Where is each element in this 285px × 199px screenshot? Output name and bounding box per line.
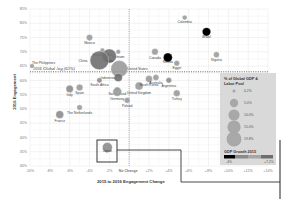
data-point-colombia[interactable]: Colombia (178, 15, 192, 24)
data-point-italy[interactable]: Italy (66, 85, 73, 97)
y-tick-label: 60% (20, 79, 28, 83)
y-tick-label: 30% (20, 164, 28, 168)
x-tick-label: +14% (263, 169, 273, 173)
data-point-label: The Philippines (32, 61, 55, 65)
data-point-china[interactable]: China (79, 51, 109, 70)
y-tick-label: 70% (20, 50, 28, 54)
x-tick-label: -6% (66, 169, 73, 173)
data-point-france[interactable]: France (54, 111, 65, 123)
data-point-label: China (79, 59, 88, 63)
legend-size-bubble (232, 89, 235, 92)
data-point-label: Colombia (178, 20, 192, 24)
data-point-label: United Kingdom (127, 91, 151, 95)
y-axis-title: 2016 Engagement (12, 74, 17, 110)
legend-size-label: 5.0% (244, 101, 252, 105)
data-point-canada[interactable]: Canada (149, 49, 161, 60)
legend-color-title: GDP Growth 2015 (224, 150, 256, 154)
data-point-label: Argentina (162, 84, 177, 88)
x-tick-label: +8% (205, 169, 213, 173)
legend-color-min: -4% (226, 160, 232, 164)
data-point-label: Russia (163, 60, 173, 64)
x-axis-ticks: -10%-8%-6%-4%-2%No Change+2%+4%+6%+8%+10… (26, 169, 274, 173)
data-point-the-netherlands[interactable]: The Netherlands (67, 105, 92, 115)
x-tick-label: No Change (119, 169, 138, 173)
data-point-russia[interactable]: Russia (163, 53, 173, 64)
legend-size-title-line2: Labor Pool (224, 82, 244, 86)
data-point-label: Spain (75, 91, 84, 95)
data-point-nigeria[interactable]: Nigeria (211, 52, 222, 62)
data-point-label: Japan (103, 149, 112, 153)
x-tick-label: +2% (145, 169, 153, 173)
data-point-label: Mexico (84, 41, 95, 45)
data-point-label: United States (127, 67, 148, 71)
data-point-mexico[interactable]: Mexico (84, 34, 95, 45)
x-tick-label: +4% (165, 169, 173, 173)
x-tick-label: -10% (26, 169, 35, 173)
data-point-argentina[interactable]: Argentina (162, 78, 177, 88)
data-point-label: Turkey (172, 97, 183, 101)
data-point-label: Germany (110, 97, 124, 101)
y-tick-label: 50% (20, 107, 28, 111)
data-point-japan[interactable]: Japan (102, 143, 112, 154)
x-tick-label: +10% (224, 169, 234, 173)
data-point-label: Nigeria (211, 58, 222, 62)
y-tick-label: 65% (20, 64, 28, 68)
legend-color-bar (224, 155, 273, 159)
y-tick-label: 75% (20, 36, 28, 40)
data-point-label: Brazil (202, 35, 211, 39)
data-point-egypt[interactable]: Egypt (172, 60, 181, 70)
y-axis-ticks: 85%80%75%70%65%60%55%50%45%40%35%30% (20, 7, 28, 168)
legend-size-label: 15.0% (244, 125, 254, 129)
legend-size-label: 19.8% (244, 137, 254, 141)
data-point-label: Italy (67, 93, 74, 97)
data-point-spain[interactable]: Spain (75, 84, 84, 95)
y-tick-label: 35% (20, 150, 28, 154)
bubble-chart: 85%80%75%70%65%60%55%50%45%40%35%30% -10… (0, 0, 285, 199)
legend-size-bubble (230, 99, 238, 107)
y-tick-label: 85% (20, 7, 28, 11)
data-point-label: South Africa (90, 83, 108, 87)
x-tick-label: +12% (244, 169, 254, 173)
global-average-label: 2016 Global Avg (63%) (33, 66, 75, 71)
y-tick-label: 40% (20, 136, 28, 140)
x-tick-label: -4% (86, 169, 93, 173)
data-point-label: France (54, 119, 65, 123)
legend-size-bubble (228, 109, 239, 120)
legend-size-label: 0.2% (244, 89, 252, 93)
x-tick-label: -2% (106, 169, 113, 173)
data-point-brazil[interactable]: Brazil (202, 28, 211, 39)
y-tick-label: 80% (20, 21, 28, 25)
x-axis-title: 2015 to 2016 Engagement Change (97, 179, 165, 184)
data-point-label: Poland (122, 104, 133, 108)
data-point-label: Indonesia (101, 76, 116, 80)
y-tick-label: 55% (20, 93, 28, 97)
legend-size-bubble (227, 132, 242, 147)
data-point-label: The Netherlands (67, 111, 92, 115)
legend-size-title: % of Global GDP & (224, 77, 258, 81)
x-tick-label: +6% (185, 169, 193, 173)
data-point-turkey[interactable]: Turkey (172, 90, 183, 101)
legend-color-max: +7.2% (264, 160, 274, 164)
x-tick-label: -8% (47, 169, 54, 173)
data-points: MexicoSaudi ArabiaVietnamIndiaChinaCanad… (30, 15, 222, 153)
data-point-label: Canada (149, 56, 161, 60)
data-point-label: Egypt (172, 66, 181, 70)
legend-size-label: 10.0% (244, 113, 254, 117)
y-tick-label: 45% (20, 121, 28, 125)
